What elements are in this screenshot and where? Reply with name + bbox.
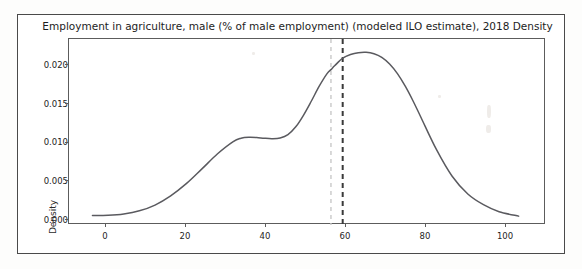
scan-speckle bbox=[438, 95, 441, 98]
scan-speckle bbox=[487, 105, 491, 118]
y-tick-label-3: 0.015 bbox=[24, 99, 68, 109]
x-tick-label-2: 40 bbox=[245, 231, 285, 241]
chart-title: Employment in agriculture, male (% of ma… bbox=[30, 18, 565, 34]
density-curve bbox=[92, 52, 518, 216]
x-tick-label-3: 60 bbox=[325, 231, 365, 241]
x-tick-label-0: 0 bbox=[85, 231, 125, 241]
y-axis-label-wrap: Density bbox=[22, 100, 36, 160]
y-tick-label-4: 0.020 bbox=[24, 60, 68, 70]
scan-speckle bbox=[486, 125, 491, 133]
y-tick-label-1: 0.005 bbox=[24, 176, 68, 186]
x-tick-label-5: 100 bbox=[485, 231, 525, 241]
plot-area bbox=[68, 38, 545, 224]
x-tick-label-1: 20 bbox=[165, 231, 205, 241]
y-tick-label-2: 0.010 bbox=[24, 137, 68, 147]
screenshot-page: Employment in agriculture, male (% of ma… bbox=[0, 0, 582, 269]
x-tick-label-4: 80 bbox=[405, 231, 445, 241]
y-tick-label-0: 0.000 bbox=[24, 215, 68, 225]
scan-speckle bbox=[252, 52, 255, 55]
density-plot-svg bbox=[69, 39, 546, 225]
